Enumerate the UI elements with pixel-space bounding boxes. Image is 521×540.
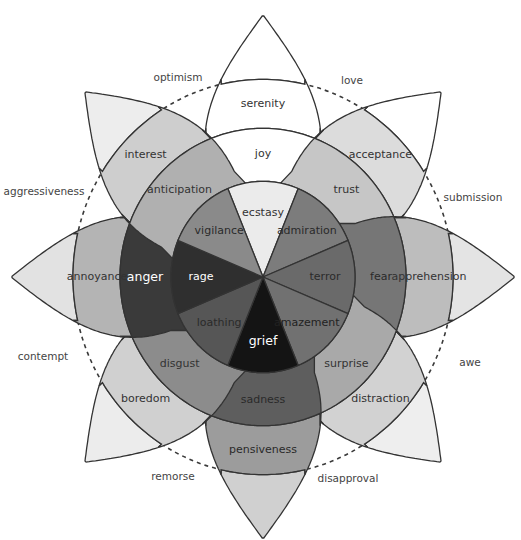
label-disgust: disgust	[160, 357, 200, 370]
dyad-label-submission: submission	[444, 191, 503, 203]
label-serenity: serenity	[241, 97, 286, 110]
petal-tip-joy	[221, 16, 305, 84]
label-interest: interest	[124, 148, 167, 161]
label-boredom: boredom	[121, 392, 170, 405]
label-apprehension: apprehension	[392, 270, 467, 283]
label-vigilance: vigilance	[195, 224, 244, 237]
label-pensiveness: pensiveness	[229, 443, 297, 456]
label-annoyance: annoyance	[67, 270, 128, 283]
label-admiration: admiration	[277, 224, 337, 237]
dyad-label-remorse: remorse	[151, 470, 194, 482]
label-amazement: amazement	[274, 316, 340, 329]
label-acceptance: acceptance	[349, 148, 413, 161]
dyad-label-love: love	[341, 74, 363, 86]
label-anger: anger	[127, 269, 164, 284]
dyad-label-contempt: contempt	[18, 350, 68, 362]
label-joy: joy	[254, 147, 272, 160]
label-trust: trust	[333, 183, 360, 196]
label-anticipation: anticipation	[147, 183, 212, 196]
label-ecstasy: ecstasy	[242, 206, 284, 219]
label-fear: fear	[370, 270, 392, 283]
label-surprise: surprise	[324, 357, 369, 370]
label-rage: rage	[188, 270, 213, 283]
plutchik-wheel-diagram: ecstasyjoyserenityadmirationtrustaccepta…	[0, 0, 521, 540]
dyad-label-aggressiveness: aggressiveness	[4, 185, 85, 197]
petal-tip-sadness	[221, 470, 305, 538]
label-distraction: distraction	[351, 392, 409, 405]
label-sadness: sadness	[241, 393, 286, 406]
label-terror: terror	[310, 270, 341, 283]
label-grief: grief	[249, 333, 278, 348]
dyad-label-disapproval: disapproval	[318, 472, 379, 484]
dyad-label-awe: awe	[459, 356, 480, 368]
dyad-label-optimism: optimism	[154, 71, 203, 83]
label-loathing: loathing	[197, 316, 242, 329]
